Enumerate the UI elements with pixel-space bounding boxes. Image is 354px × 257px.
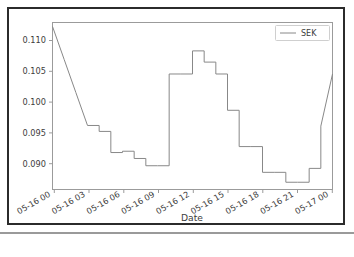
y-tick-label: 0.100 — [23, 97, 46, 107]
sek-price-chart: 0.110 0.105 0.100 0.095 0.090 05-16 00 0… — [0, 0, 354, 257]
x-tick-label: 05-16 09 — [119, 189, 156, 216]
x-tick-label: 05-17 00 — [293, 189, 330, 216]
x-tick-label: 05-16 00 — [15, 189, 52, 216]
y-axis-tick-labels: 0.110 0.105 0.100 0.095 0.090 — [23, 35, 46, 168]
x-tick-label: 05-16 18 — [224, 189, 261, 216]
x-tick-label: 05-16 21 — [258, 189, 295, 216]
axes-spines — [53, 23, 333, 190]
y-tick-label: 0.095 — [23, 128, 46, 138]
y-tick-label: 0.090 — [23, 159, 46, 169]
x-tick-label: 05-16 03 — [50, 189, 87, 216]
x-axis-title: Date — [181, 212, 203, 223]
x-axis-tick-labels: 05-16 00 05-16 03 05-16 06 05-16 09 05-1… — [15, 189, 330, 216]
series-line-sek — [53, 26, 333, 182]
y-tick-label: 0.105 — [23, 66, 46, 76]
chart-legend: SEK — [276, 26, 330, 41]
legend-label-sek: SEK — [301, 29, 317, 38]
y-tick-label: 0.110 — [23, 35, 46, 45]
y-axis-ticks — [49, 41, 53, 164]
screenshot-root: 0.110 0.105 0.100 0.095 0.090 05-16 00 0… — [0, 0, 354, 257]
x-tick-label: 05-16 06 — [85, 189, 122, 216]
